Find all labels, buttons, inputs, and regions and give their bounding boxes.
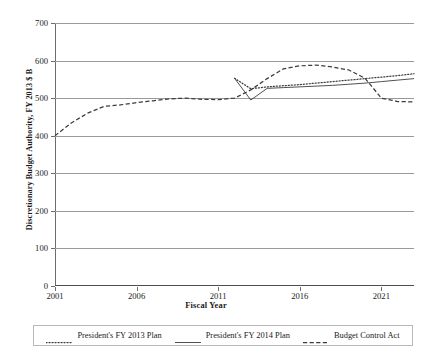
x-tick-label: 2006: [128, 292, 145, 301]
y-axis-title: Discretionary Budget Authority, FY 2013 …: [25, 25, 34, 275]
y-tick-label: 300: [35, 169, 48, 178]
legend-item-3[interactable]: Budget Control Act: [303, 331, 400, 340]
x-axis-title-text: Fiscal Year: [185, 301, 227, 310]
chart-legend: President's FY 2013 PlanPresident's FY 2…: [33, 325, 413, 346]
x-tick-label: 2016: [291, 292, 308, 301]
x-tick-label: 2011: [210, 292, 227, 301]
x-axis-title: Fiscal Year: [0, 301, 444, 310]
x-tick-label: 2001: [46, 292, 63, 301]
legend-swatch-solid: [175, 332, 201, 339]
x-tick-label: 2021: [373, 292, 390, 301]
plot-area: 0100200300400500600700 20012006201120162…: [55, 23, 414, 286]
y-tick-label: 600: [35, 56, 48, 65]
data-series-layer: [55, 23, 414, 286]
y-tick-label: 400: [35, 131, 48, 140]
legend-swatch-dotted: [46, 332, 72, 339]
chart-container: Discretionary Budget Authority, FY 2013 …: [0, 0, 444, 356]
series-line-3: [55, 65, 414, 136]
series-line-2: [235, 78, 415, 100]
y-tick-label: 0: [44, 282, 48, 291]
legend-item-2[interactable]: President's FY 2014 Plan: [175, 331, 290, 340]
legend-label: President's FY 2013 Plan: [77, 331, 161, 340]
legend-label: Budget Control Act: [334, 331, 400, 340]
legend-item-1[interactable]: President's FY 2013 Plan: [46, 331, 161, 340]
y-tick-label: 500: [35, 94, 48, 103]
legend-swatch-dashed: [303, 332, 329, 339]
y-tick-label: 100: [35, 244, 48, 253]
y-tick-label: 700: [35, 19, 48, 28]
legend-label: President's FY 2014 Plan: [206, 331, 290, 340]
y-tick-label: 200: [35, 207, 48, 216]
